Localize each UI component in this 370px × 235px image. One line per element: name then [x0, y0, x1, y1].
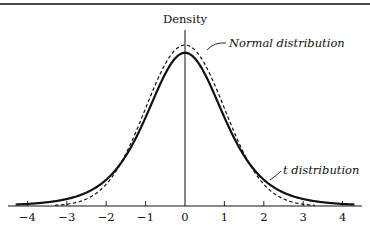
normal-distribution-label: Normal distribution	[228, 36, 345, 50]
t-annotation-leader	[270, 171, 281, 180]
y-axis-label: Density	[163, 12, 208, 26]
x-tick-label: 3	[300, 210, 307, 224]
x-tick-label: 0	[181, 210, 188, 224]
chart: Density −4−3−2−101234 Normal distributio…	[0, 0, 370, 235]
x-tick-label: −3	[58, 210, 75, 224]
x-tick-label: −1	[137, 210, 154, 224]
x-tick-label: 4	[339, 210, 346, 224]
x-tick-label: −2	[98, 210, 115, 224]
t-distribution-label: t distribution	[283, 163, 359, 177]
x-tick-label: 1	[221, 210, 228, 224]
normal-annotation-leader	[207, 43, 226, 50]
x-tick-label: −4	[19, 210, 36, 224]
x-tick-label: 2	[260, 210, 267, 224]
